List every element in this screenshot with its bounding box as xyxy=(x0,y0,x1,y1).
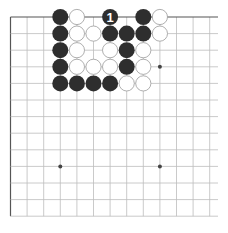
white-stone xyxy=(69,9,84,24)
white-stone xyxy=(136,43,151,58)
black-stone xyxy=(102,26,118,42)
stone-body xyxy=(52,9,68,25)
white-stone xyxy=(136,59,151,74)
go-board: 1 xyxy=(0,0,228,233)
stone-body xyxy=(52,59,68,75)
stone-body xyxy=(86,26,101,41)
black-stone xyxy=(135,9,151,25)
black-stone xyxy=(119,26,135,42)
stone-body xyxy=(69,9,84,24)
black-stone xyxy=(52,9,68,25)
stone-body xyxy=(136,59,151,74)
stone-body xyxy=(102,75,118,91)
stone-body xyxy=(119,26,135,42)
black-stone xyxy=(52,75,68,91)
white-stone xyxy=(69,43,84,58)
stone-body xyxy=(102,26,118,42)
stone-body xyxy=(119,59,135,75)
black-stone xyxy=(52,59,68,75)
black-stone: 1 xyxy=(102,9,118,25)
black-stone xyxy=(102,75,118,91)
stones: 1 xyxy=(52,9,167,91)
black-stone xyxy=(119,59,135,75)
stone-body xyxy=(152,9,167,24)
stone-body xyxy=(69,43,84,58)
black-stone xyxy=(86,75,102,91)
black-stone xyxy=(69,75,85,91)
white-stone xyxy=(86,59,101,74)
star-point xyxy=(58,164,62,168)
stone-body xyxy=(135,9,151,25)
white-stone xyxy=(86,26,101,41)
stone-body xyxy=(136,76,151,91)
stone-body xyxy=(69,59,84,74)
white-stone xyxy=(119,76,134,91)
stone-body xyxy=(52,75,68,91)
stone-body xyxy=(135,26,151,42)
stone-body xyxy=(52,42,68,58)
black-stone xyxy=(119,42,135,58)
black-stone xyxy=(135,26,151,42)
stone-body xyxy=(103,43,118,58)
white-stone xyxy=(69,26,84,41)
white-stone xyxy=(69,59,84,74)
stone-body xyxy=(69,26,84,41)
stone-body xyxy=(103,59,118,74)
black-stone xyxy=(52,26,68,42)
white-stone xyxy=(152,9,167,24)
stone-body xyxy=(119,42,135,58)
stone-body xyxy=(86,75,102,91)
star-point xyxy=(158,65,162,69)
white-stone xyxy=(136,76,151,91)
white-stone xyxy=(152,26,167,41)
stone-body xyxy=(152,26,167,41)
stone-body xyxy=(52,26,68,42)
stone-body xyxy=(136,43,151,58)
white-stone xyxy=(103,43,118,58)
white-stone xyxy=(103,59,118,74)
stone-body xyxy=(69,75,85,91)
black-stone xyxy=(52,42,68,58)
star-point xyxy=(158,164,162,168)
move-number-label: 1 xyxy=(106,10,113,25)
stone-body xyxy=(86,59,101,74)
stone-body xyxy=(119,76,134,91)
